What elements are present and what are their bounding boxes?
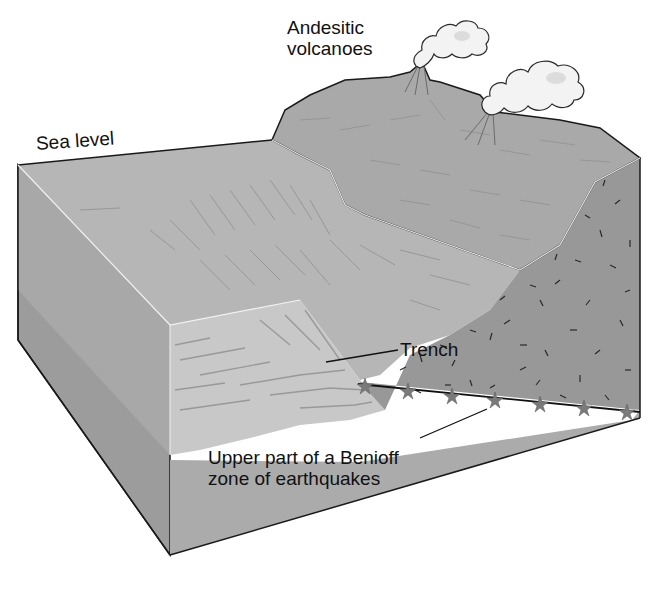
volcanoes-label-line2: volcanoes: [287, 38, 373, 59]
subduction-block-diagram: [0, 0, 651, 592]
volcanoes-label-line1: Andesitic: [287, 17, 373, 38]
volcano-ash-cloud-icon: [482, 61, 584, 115]
benioff-zone-label: Upper part of a Benioff zone of earthqua…: [208, 447, 399, 489]
benioff-label-line2: zone of earthquakes: [208, 468, 399, 489]
trench-label: Trench: [400, 339, 458, 360]
volcano-ash-cloud-icon: [414, 21, 489, 68]
benioff-label-line1: Upper part of a Benioff: [208, 447, 399, 468]
benioff-leader-line: [420, 409, 487, 438]
andesitic-volcanoes-label: Andesitic volcanoes: [287, 17, 373, 59]
